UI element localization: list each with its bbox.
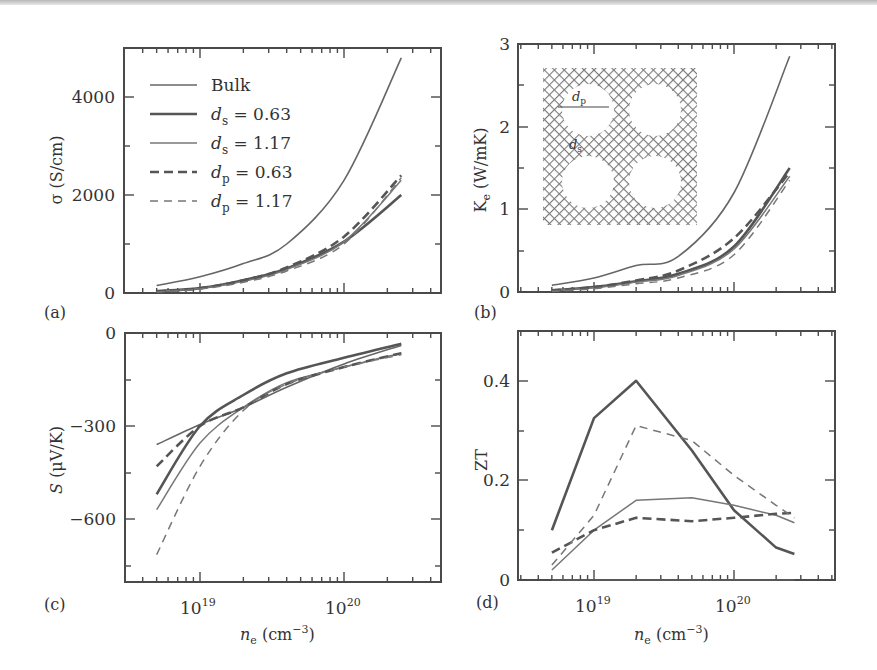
panel-d: 0.4 0.2 0 ZT (d) 1019 1020 ne (cm−3) [472,331,835,647]
xtick-1e20: 1020 [325,596,361,618]
curve-d-p-1-17 [157,355,402,555]
pore [562,84,614,136]
ytick-4000: 4000 [72,87,115,107]
ticks-d [518,331,835,580]
xlabel-d: ne (cm−3) [634,623,709,647]
curve-d-p-0-63 [157,353,402,466]
lattice-inset: dp ds [543,68,697,225]
xlabel-c: ne (cm−3) [240,623,315,647]
ytick-0: 0 [499,282,510,302]
curve-d-p-1-17 [552,426,795,565]
ytick-2: 2 [499,117,510,137]
ylabel-ke: Ke (W/mK) [471,128,493,213]
plot-frame-c [125,333,441,582]
curve-d-s-1-17 [552,498,795,570]
ytick-0.2: 0.2 [483,470,510,490]
curves-d [552,381,795,580]
panel-a: 4000 2000 0 σ (S/cm) (a) Bulkds = 0.63ds… [44,48,441,322]
xtick-1e19: 1019 [180,596,216,618]
xtick-1e19: 1019 [575,594,611,616]
ylabel-zt: ZT [472,449,491,471]
ylabel-sigma: σ (S/cm) [47,136,66,205]
ytick-0: 0 [105,323,116,343]
panel-b: dp ds 3 2 1 0 Ke (W/mK) (b) [471,34,835,322]
panel-label-a: (a) [44,303,66,322]
ylabel-seebeck: S (μV/K) [47,426,66,494]
ytick-2000: 2000 [72,185,115,205]
legend-label: ds = 0.63 [211,104,291,128]
curve-d-s-0-63 [157,344,402,494]
legend-label: dp = 0.63 [211,162,292,186]
ytick-1: 1 [499,199,510,219]
ytick-0.4: 0.4 [483,371,510,391]
legend-label: dp = 1.17 [211,191,292,215]
lattice-image [543,68,697,225]
curve-d-s-0-63 [552,381,795,554]
legend: Bulkds = 0.63ds = 1.17dp = 0.63dp = 1.17 [150,75,292,215]
panel-c: 0 −300 −600 S (μV/K) (c) 1019 1020 ne (c… [44,323,441,647]
curves-c [157,344,402,555]
panel-label-b: (b) [474,303,497,322]
plot-frame-d [518,331,835,580]
legend-label: Bulk [211,75,251,95]
ticks-c [125,333,441,582]
ytick-0: 0 [499,570,510,590]
xtick-1e20: 1020 [715,594,751,616]
ytick-minus300: −300 [69,416,116,436]
pore [562,156,614,208]
ytick-minus600: −600 [69,509,116,529]
pore [629,156,681,208]
figure: 4000 2000 0 σ (S/cm) (a) Bulkds = 0.63ds… [0,0,877,670]
ytick-0: 0 [104,283,115,303]
pore [629,84,681,136]
ytick-3: 3 [499,34,510,54]
curve-bulk [157,345,402,444]
panel-label-d: (d) [476,593,499,612]
legend-label: ds = 1.17 [211,133,291,157]
panel-label-c: (c) [44,595,65,614]
